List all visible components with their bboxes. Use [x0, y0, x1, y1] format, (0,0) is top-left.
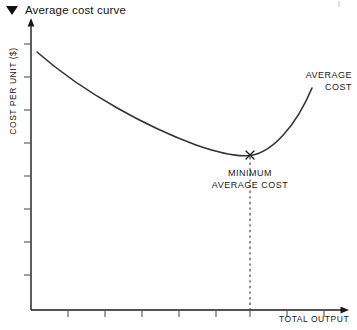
average-cost-curve — [37, 52, 312, 156]
minimum-average-cost-annotation: MINIMUM AVERAGE COST — [212, 168, 288, 191]
y-axis-ticks — [24, 44, 31, 275]
average-cost-annotation: AVERAGE COST — [306, 70, 352, 93]
y-axis-title: COST PER UNIT ($) — [8, 26, 18, 156]
average-cost-annotation-line2: COST — [306, 82, 352, 94]
average-cost-annotation-line1: AVERAGE — [306, 70, 352, 82]
average-cost-curve-figure: Average cost curve — [0, 0, 357, 330]
x-axis-title: TOTAL OUTPUT — [279, 314, 349, 324]
chart-plot-area — [0, 0, 357, 330]
minimum-average-cost-line1: MINIMUM — [212, 168, 288, 180]
minimum-average-cost-line2: AVERAGE COST — [212, 180, 288, 192]
y-axis — [24, 18, 34, 310]
